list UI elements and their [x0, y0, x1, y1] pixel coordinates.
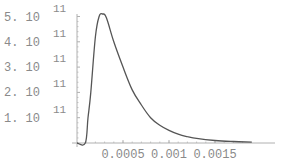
x-tick-label: 0.001	[151, 148, 187, 162]
y-axis-ticks: 1. 10112. 10113. 10114. 10115. 1011	[4, 3, 80, 138]
data-curve	[77, 14, 252, 145]
y-tick-label: 1. 10	[4, 112, 40, 126]
y-tick-label: 5. 10	[4, 11, 40, 25]
y-tick-exponent: 11	[53, 78, 67, 90]
y-tick-exponent: 11	[53, 3, 67, 15]
x-tick-label: 0.0005	[101, 148, 144, 162]
y-tick-exponent: 11	[53, 28, 67, 40]
axes	[72, 14, 275, 147]
y-tick-exponent: 11	[53, 104, 67, 116]
y-tick-exponent: 11	[53, 53, 67, 65]
line-chart: 1. 10112. 10113. 10114. 10115. 1011 0.00…	[0, 0, 290, 163]
y-tick-label: 2. 10	[4, 86, 40, 100]
y-tick-label: 4. 10	[4, 36, 40, 50]
y-tick-label: 3. 10	[4, 61, 40, 75]
x-tick-label: 0.0015	[193, 148, 236, 162]
